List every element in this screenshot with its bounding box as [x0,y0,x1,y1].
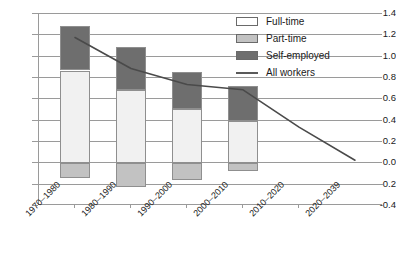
legend-item-self-employed[interactable]: Self-employed [236,48,386,65]
legend-item-part-time[interactable]: Part-time [236,31,386,48]
all-workers-line-swatch-icon [236,72,258,74]
legend-label: All workers [266,67,315,78]
x-tick-mark [242,204,243,208]
chart-legend: Full-time Part-time Self-employed All wo… [236,14,386,82]
x-tick-mark [186,204,187,208]
x-tick-mark [74,204,75,208]
part-time-swatch-icon [236,34,258,43]
legend-label: Self-employed [266,50,330,61]
x-tick-mark [298,204,299,208]
legend-label: Full-time [266,16,304,27]
legend-label: Part-time [266,33,307,44]
legend-item-all-workers[interactable]: All workers [236,65,386,82]
x-tick-mark [130,204,131,208]
self-employed-swatch-icon [236,51,258,60]
chart-container: 1.4 1.2 1.0 0.8 0.6 0.4 0.2 0.0 -0.2 -0.… [0,0,396,274]
full-time-swatch-icon [236,17,258,26]
legend-item-full-time[interactable]: Full-time [236,14,386,31]
